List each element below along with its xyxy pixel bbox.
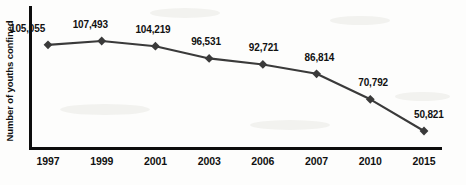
data-point-label: 50,821 — [414, 109, 444, 120]
data-point-label: 86,814 — [305, 52, 335, 63]
data-point-marker — [205, 54, 214, 63]
data-point-label: 70,792 — [358, 77, 388, 88]
data-point-label: 107,493 — [73, 19, 108, 30]
data-point-label: 92,721 — [249, 42, 279, 53]
data-point-marker — [420, 127, 429, 136]
data-series-svg — [0, 0, 466, 185]
data-point-marker — [258, 60, 267, 69]
plot-area — [0, 0, 466, 185]
x-axis-tick-label: 2015 — [413, 155, 436, 167]
x-axis-tick-label: 2001 — [144, 155, 167, 167]
data-point-marker — [97, 37, 106, 46]
data-point-label: 104,219 — [135, 24, 170, 35]
x-axis-tick-label: 2006 — [251, 155, 274, 167]
data-point-label: 105,055 — [10, 23, 45, 34]
data-point-marker — [366, 95, 375, 104]
x-axis-tick-label: 1997 — [37, 155, 60, 167]
x-axis-tick-label: 2010 — [359, 155, 382, 167]
data-point-marker — [312, 69, 321, 78]
data-point-label: 96,531 — [191, 36, 221, 47]
x-axis-tick-label: 1999 — [90, 155, 113, 167]
line-chart: Number of youths confined 105,055107,493… — [0, 0, 466, 185]
x-axis-tick-label: 2003 — [198, 155, 221, 167]
data-point-marker — [151, 42, 160, 51]
data-point-marker — [44, 40, 53, 49]
x-axis-tick-label: 2007 — [305, 155, 328, 167]
